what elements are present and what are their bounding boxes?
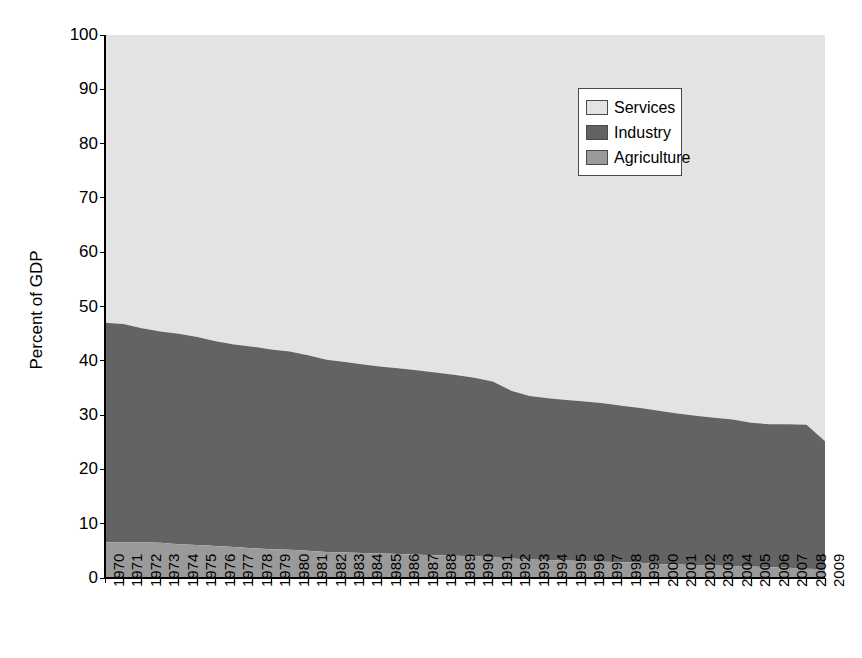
x-tick-1971: 1971: [129, 554, 144, 587]
x-tick-1978: 1978: [259, 554, 274, 587]
x-tick-1991: 1991: [499, 554, 514, 587]
legend-item-services: Services: [586, 95, 674, 120]
x-tick-1989: 1989: [462, 554, 477, 587]
x-tick-2006: 2006: [776, 554, 791, 587]
x-tick-1990: 1990: [480, 554, 495, 587]
legend-item-agriculture: Agriculture: [586, 145, 674, 170]
x-tick-1998: 1998: [628, 554, 643, 587]
x-tick-1970: 1970: [111, 554, 126, 587]
x-tick-2001: 2001: [683, 554, 698, 587]
x-tick-1981: 1981: [314, 554, 329, 587]
legend-label-agriculture: Agriculture: [614, 150, 690, 166]
legend-swatch-agriculture: [586, 150, 608, 165]
x-tick-1993: 1993: [536, 554, 551, 587]
x-tick-1997: 1997: [609, 554, 624, 587]
x-tick-1976: 1976: [222, 554, 237, 587]
x-tick-1992: 1992: [517, 554, 532, 587]
x-tick-2005: 2005: [757, 554, 772, 587]
x-tick-1977: 1977: [240, 554, 255, 587]
x-tick-1988: 1988: [443, 554, 458, 587]
x-tick-1972: 1972: [148, 554, 163, 587]
x-tick-1996: 1996: [591, 554, 606, 587]
legend-swatch-industry: [586, 125, 608, 140]
x-tick-1973: 1973: [166, 554, 181, 587]
x-tick-2000: 2000: [665, 554, 680, 587]
legend-swatch-services: [586, 100, 608, 115]
x-tick-1994: 1994: [554, 554, 569, 587]
x-tick-2009: 2009: [831, 554, 846, 587]
x-tick-1995: 1995: [573, 554, 588, 587]
x-tick-1979: 1979: [277, 554, 292, 587]
x-tick-2002: 2002: [702, 554, 717, 587]
x-tick-1980: 1980: [296, 554, 311, 587]
x-tick-1983: 1983: [351, 554, 366, 587]
chart-legend: Services Industry Agriculture: [578, 88, 682, 176]
x-tick-2008: 2008: [813, 554, 828, 587]
x-tick-1986: 1986: [406, 554, 421, 587]
legend-label-industry: Industry: [614, 125, 671, 141]
x-tick-1999: 1999: [646, 554, 661, 587]
legend-label-services: Services: [614, 100, 675, 116]
x-tick-2007: 2007: [794, 554, 809, 587]
stacked-area-chart: Percent of GDP 0102030405060708090100 19…: [0, 0, 862, 658]
legend-item-industry: Industry: [586, 120, 674, 145]
x-tick-1982: 1982: [333, 554, 348, 587]
x-tick-2004: 2004: [739, 554, 754, 587]
x-tick-1975: 1975: [203, 554, 218, 587]
x-tick-1987: 1987: [425, 554, 440, 587]
x-tick-1984: 1984: [369, 554, 384, 587]
x-tick-1974: 1974: [185, 554, 200, 587]
x-tick-2003: 2003: [720, 554, 735, 587]
x-tick-1985: 1985: [388, 554, 403, 587]
